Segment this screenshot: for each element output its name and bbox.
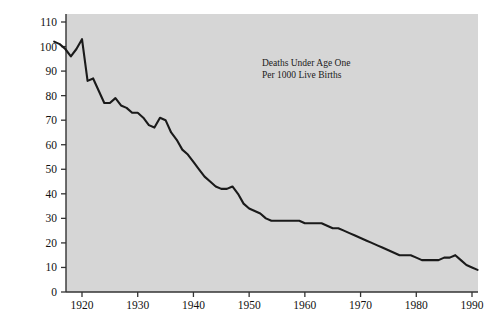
y-tick-label: 50 [46, 163, 58, 175]
annotation-line-2: Per 1000 Live Births [262, 70, 342, 80]
y-tick-label: 70 [46, 114, 58, 126]
y-tick-label: 40 [46, 188, 58, 200]
y-axis-tick-marks [61, 22, 66, 292]
x-tick-label: 1980 [405, 299, 428, 311]
y-tick-label: 110 [40, 16, 57, 28]
annotation-line-1: Deaths Under Age One [262, 58, 350, 68]
y-tick-label: 0 [51, 286, 57, 298]
x-tick-label: 1920 [71, 299, 94, 311]
x-tick-label: 1950 [238, 299, 261, 311]
y-tick-label: 20 [46, 237, 58, 249]
y-tick-label: 10 [46, 261, 58, 273]
y-tick-label: 90 [46, 65, 58, 77]
y-tick-label: 60 [46, 139, 58, 151]
x-tick-label: 1940 [182, 299, 205, 311]
x-tick-label: 1990 [461, 299, 484, 311]
x-tick-label: 1970 [349, 299, 372, 311]
x-axis-tick-labels: 19201930194019501960197019801990 [71, 299, 484, 311]
line-chart: 0102030405060708090100110 19201930194019… [0, 0, 492, 321]
plot-panel-background [66, 14, 478, 292]
x-tick-label: 1960 [293, 299, 316, 311]
y-tick-label: 30 [46, 212, 58, 224]
x-tick-label: 1930 [126, 299, 149, 311]
chart-figure: 0102030405060708090100110 19201930194019… [0, 0, 492, 321]
y-axis-tick-labels: 0102030405060708090100110 [40, 16, 58, 298]
y-tick-label: 80 [46, 90, 58, 102]
x-axis-tick-marks [82, 292, 472, 297]
